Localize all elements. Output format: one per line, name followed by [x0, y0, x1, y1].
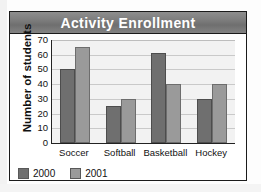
bar-soccer-2001 — [75, 47, 90, 143]
chart-page: Activity Enrollment Number of students 7… — [0, 0, 261, 192]
chart-title-band: Activity Enrollment — [10, 12, 246, 34]
bar-softball-2000 — [106, 106, 121, 143]
chart-body: Number of students 706050403020100 Socce… — [10, 34, 246, 180]
legend-item-2000[interactable]: 2000 — [18, 168, 55, 179]
chart-legend: 20002001 — [18, 168, 108, 179]
y-axis-tick-50: 50 — [28, 65, 48, 75]
bar-soccer-2000 — [60, 69, 75, 143]
bar-group-basketball — [144, 40, 190, 143]
y-axis-tick-60: 60 — [28, 50, 48, 60]
x-axis-label-basketball: Basketball — [143, 147, 189, 158]
bar-group-softball — [98, 40, 144, 143]
y-axis-tick-20: 20 — [28, 109, 48, 119]
page-margin-bottom — [0, 184, 261, 192]
bar-basketball-2000 — [151, 53, 166, 143]
bar-softball-2001 — [121, 99, 136, 143]
bar-group-hockey — [189, 40, 235, 143]
legend-label-2000: 2000 — [33, 169, 55, 179]
chart-frame: Activity Enrollment Number of students 7… — [9, 11, 247, 181]
legend-item-2001[interactable]: 2001 — [70, 168, 107, 179]
bar-hockey-2001 — [212, 84, 227, 143]
bar-group-soccer — [52, 40, 98, 143]
x-axis-category-labels: SoccerSoftballBasketballHockey — [51, 147, 234, 158]
x-axis-label-soccer: Soccer — [51, 147, 97, 158]
y-axis-tick-40: 40 — [28, 79, 48, 89]
y-axis-tick-0: 0 — [28, 138, 48, 148]
y-axis-tick-30: 30 — [28, 94, 48, 104]
bar-hockey-2000 — [197, 99, 212, 143]
bar-basketball-2001 — [166, 84, 181, 143]
chart-title: Activity Enrollment — [60, 16, 195, 30]
x-axis-label-softball: Softball — [97, 147, 143, 158]
legend-label-2001: 2001 — [85, 169, 107, 179]
plot-area — [51, 40, 235, 144]
x-axis-label-hockey: Hockey — [188, 147, 234, 158]
page-margin-left — [0, 0, 7, 192]
legend-swatch-2001-icon — [70, 168, 81, 179]
y-axis-tick-labels: 706050403020100 — [28, 40, 48, 143]
y-axis-tick-10: 10 — [28, 124, 48, 134]
bar-series-container — [52, 40, 235, 143]
y-axis-tick-70: 70 — [28, 35, 48, 45]
legend-swatch-2000-icon — [18, 168, 29, 179]
